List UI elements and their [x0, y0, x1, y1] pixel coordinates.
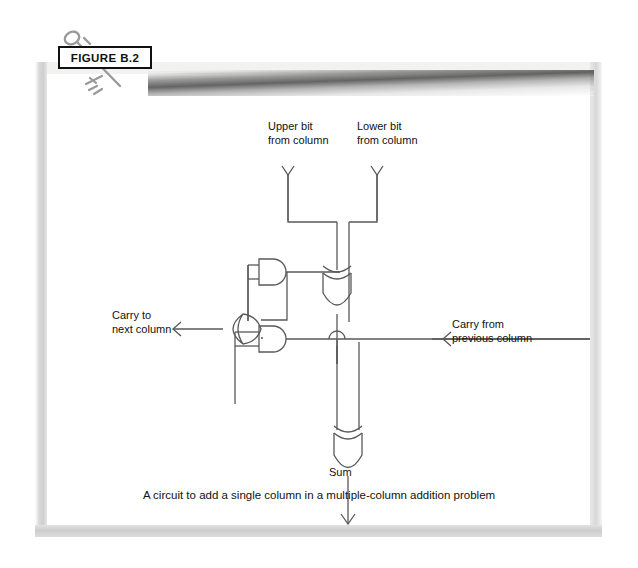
xor-gate-lower — [334, 426, 362, 468]
figure-page: FIGURE B.2 — [0, 0, 638, 568]
or-gate — [233, 314, 261, 344]
page-frame-left-edge — [35, 62, 47, 537]
figure-label-text: FIGURE B.2 — [71, 52, 140, 64]
label-carry-to-next-column: Carry to next column — [112, 309, 171, 336]
page-frame-bottom-edge — [35, 525, 602, 537]
page-frame-right-edge — [590, 62, 602, 537]
and-gate-top — [259, 259, 286, 285]
label-sum: Sum — [329, 466, 352, 480]
label-lower-bit: Lower bit from column — [357, 120, 418, 147]
figure-caption: A circuit to add a single column in a mu… — [0, 489, 638, 501]
and-gate-bottom — [259, 326, 286, 352]
label-carry-from-previous-column: Carry from previous column — [452, 318, 532, 345]
figure-label-box: FIGURE B.2 — [58, 46, 152, 69]
carry-to-arrow — [173, 322, 223, 336]
label-upper-bit: Upper bit from column — [268, 120, 329, 147]
